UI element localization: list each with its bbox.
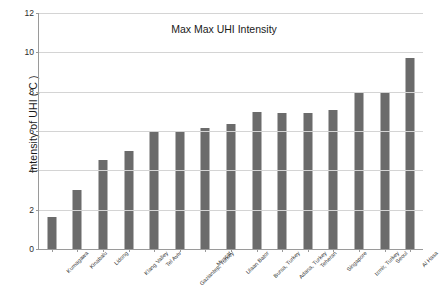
bar[interactable]	[124, 151, 133, 249]
x-tick-label: Singapore	[346, 250, 368, 272]
x-tick-label: Kumagawa	[65, 250, 89, 274]
y-tick-mark-12	[36, 13, 39, 14]
bar[interactable]	[175, 132, 184, 249]
bar[interactable]	[73, 190, 82, 249]
x-tick-label: Izmir, Turkey	[373, 250, 400, 277]
gridline-12	[39, 13, 423, 14]
bar[interactable]	[226, 124, 235, 249]
x-tick-label: Lidong	[113, 250, 129, 266]
gridline-6	[39, 131, 423, 132]
x-axis-labels: KumagawaKinabaluLidongKlang ValleyTel Av…	[38, 250, 423, 301]
y-tick-label-4: 4	[29, 165, 34, 175]
y-tick-label-2: 2	[29, 205, 34, 215]
bar[interactable]	[150, 132, 159, 249]
bar[interactable]	[252, 112, 261, 249]
bar[interactable]	[406, 58, 415, 249]
gridline-10	[39, 52, 423, 53]
y-tick-mark-2	[36, 210, 39, 211]
bar[interactable]	[303, 113, 312, 249]
y-tick-label-12: 12	[25, 8, 34, 18]
y-tick-label-0: 0	[29, 244, 34, 254]
bar[interactable]	[278, 113, 287, 249]
bar[interactable]	[47, 217, 56, 249]
chart-title: Max Max UHI Intensity	[0, 23, 426, 35]
y-tick-label-8: 8	[29, 87, 34, 97]
y-tick-mark-6	[36, 131, 39, 132]
bar[interactable]	[201, 128, 210, 249]
plot-area: 024681012	[38, 13, 423, 249]
gridline-2	[39, 210, 423, 211]
gridline-4	[39, 170, 423, 171]
y-tick-label-6: 6	[29, 126, 34, 136]
x-tick-label: Bursa, Turkey	[272, 250, 301, 279]
x-tick-label: Ulaan Bator	[245, 250, 270, 275]
y-tick-mark-4	[36, 170, 39, 171]
y-tick-label-10: 10	[25, 47, 34, 57]
y-tick-mark-10	[36, 52, 39, 53]
bar[interactable]	[98, 160, 107, 249]
y-tick-mark-8	[36, 92, 39, 93]
gridline-8	[39, 92, 423, 93]
x-tick-label: Al Hasa	[421, 250, 439, 268]
x-tick-label: Kinabalu	[89, 250, 109, 270]
